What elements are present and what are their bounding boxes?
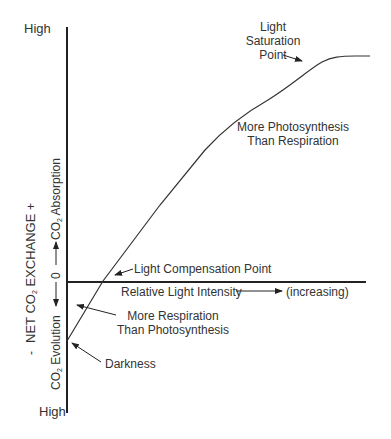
plus-sign: + xyxy=(24,203,38,210)
compensation-arrow xyxy=(115,269,133,275)
light-compensation-label: Light Compensation Point xyxy=(134,262,271,276)
exchange-text: EXCHANGE xyxy=(23,214,38,291)
y-bottom-label: High xyxy=(39,405,66,419)
light-saturation-label: Light Saturation Point xyxy=(238,20,308,62)
zero-label: 0 xyxy=(49,272,63,279)
sat-line-1: Light xyxy=(238,20,308,34)
darkness-arrow xyxy=(72,343,101,362)
more-resp-line-1: More Respiration xyxy=(108,309,238,323)
subscript-2: 2 xyxy=(56,368,63,372)
y-top-label: High xyxy=(24,22,51,36)
more-respiration-label: More Respiration Than Photosynthesis xyxy=(108,309,238,337)
co2-text: CO xyxy=(49,372,63,390)
sat-line-3: Point xyxy=(238,48,308,62)
increasing-label: (increasing) xyxy=(286,285,349,299)
co2-evolution-label: CO2 Evolution xyxy=(49,315,67,390)
co2-text: CO xyxy=(49,222,63,240)
co2-text: CO xyxy=(23,294,38,314)
more-photosynthesis-label: More Photosynthesis Than Respiration xyxy=(228,120,358,148)
evolution-text: Evolution xyxy=(49,315,63,368)
net-co2-exchange-label: NET CO2 EXCHANGE xyxy=(24,214,42,343)
darkness-label: Darkness xyxy=(105,357,156,371)
subscript-2: 2 xyxy=(31,290,38,294)
more-photo-line-2: Than Respiration xyxy=(228,134,358,148)
relative-light-intensity-label: Relative Light Intensity xyxy=(121,285,242,299)
sat-line-2: Saturation xyxy=(238,34,308,48)
net-text: NET xyxy=(23,314,38,343)
co2-absorption-label: CO2 Absorption xyxy=(49,158,67,240)
minus-sign: - xyxy=(24,351,38,355)
more-resp-line-2: Than Photosynthesis xyxy=(108,323,238,337)
subscript-2: 2 xyxy=(56,218,63,222)
more-photo-line-1: More Photosynthesis xyxy=(228,120,358,134)
absorption-text: Absorption xyxy=(49,158,63,218)
